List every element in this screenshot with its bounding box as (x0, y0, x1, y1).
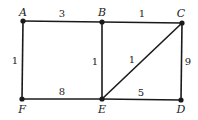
edge-weight-a-f: 1 (12, 55, 18, 66)
edge-weight-f-e: 8 (59, 86, 65, 97)
edges-layer (22, 21, 182, 100)
node-c (179, 20, 184, 25)
node-d (178, 97, 183, 102)
edge-b-c (102, 22, 182, 23)
node-label-f: F (17, 103, 26, 116)
edge-weight-b-c: 1 (139, 8, 145, 19)
node-label-a: A (18, 6, 27, 19)
node-e (99, 96, 104, 101)
node-f (19, 96, 24, 101)
edge-weight-e-d: 5 (138, 87, 144, 98)
edge-weight-e-c: 1 (129, 54, 135, 65)
node-label-b: B (97, 6, 106, 19)
node-label-c: C (177, 7, 186, 20)
edge-weight-a-b: 3 (59, 8, 65, 19)
graph-diagram: 31111985 ABCFED (0, 0, 198, 120)
edge-weight-b-e: 1 (92, 56, 98, 67)
node-a (20, 18, 25, 23)
edge-a-f (22, 21, 23, 99)
edge-c-d (181, 23, 182, 100)
edge-a-b (23, 21, 102, 22)
edge-weight-c-d: 9 (185, 56, 191, 67)
node-label-d: D (176, 103, 186, 116)
edge-e-d (102, 99, 181, 100)
node-b (99, 19, 104, 24)
node-label-e: E (97, 103, 106, 116)
